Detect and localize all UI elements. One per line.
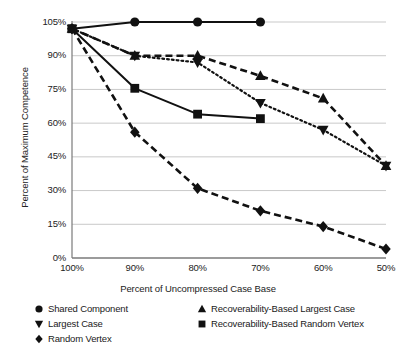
plot-area [0,0,396,300]
square-marker-icon [195,317,209,331]
marker-diamond [318,221,328,232]
series-line-4 [72,29,260,119]
legend-item: Random Vertex [32,331,128,346]
series-line-3 [72,29,386,166]
marker-triangle-down [192,58,203,68]
triangle-up-marker-icon [195,302,209,316]
marker-square [199,320,206,327]
series-line-0 [72,22,260,29]
marker-circle [130,17,139,26]
marker-diamond [35,334,42,343]
marker-circle [35,305,42,312]
marker-triangle-down [35,320,43,328]
circle-marker-icon [32,302,46,316]
marker-diamond [256,205,266,216]
marker-square [193,110,202,119]
marker-triangle-up [318,93,329,103]
marker-square [256,114,265,123]
legend-label: Shared Component [48,303,128,314]
marker-triangle-up [381,160,392,170]
triangle-down-marker-icon [32,317,46,331]
legend-label: Random Vertex [48,333,112,344]
legend-label: Recoverability-Based Random Vertex [211,318,364,329]
legend-label: Largest Case [48,318,103,329]
marker-circle [193,17,202,26]
legend-item: Recoverability-Based Largest Case [195,301,364,316]
marker-triangle-up [198,304,206,312]
legend-column-0: Shared ComponentLargest CaseRandom Verte… [32,301,128,346]
legend-item: Shared Component [32,301,128,316]
series-line-1 [72,29,386,166]
marker-square [130,84,139,93]
legend-label: Recoverability-Based Largest Case [211,303,355,314]
marker-triangle-down [318,126,329,136]
chart-legend: Shared ComponentLargest CaseRandom Verte… [32,301,392,351]
legend-item: Largest Case [32,316,128,331]
marker-square [68,24,77,33]
marker-triangle-down [255,99,266,109]
chart-figure: Percent of Maximum Competence Percent of… [0,0,396,354]
legend-item: Recoverability-Based Random Vertex [195,316,364,331]
legend-column-1: Recoverability-Based Largest CaseRecover… [195,301,364,331]
diamond-marker-icon [32,332,46,346]
marker-diamond [381,243,391,254]
marker-circle [256,17,265,26]
